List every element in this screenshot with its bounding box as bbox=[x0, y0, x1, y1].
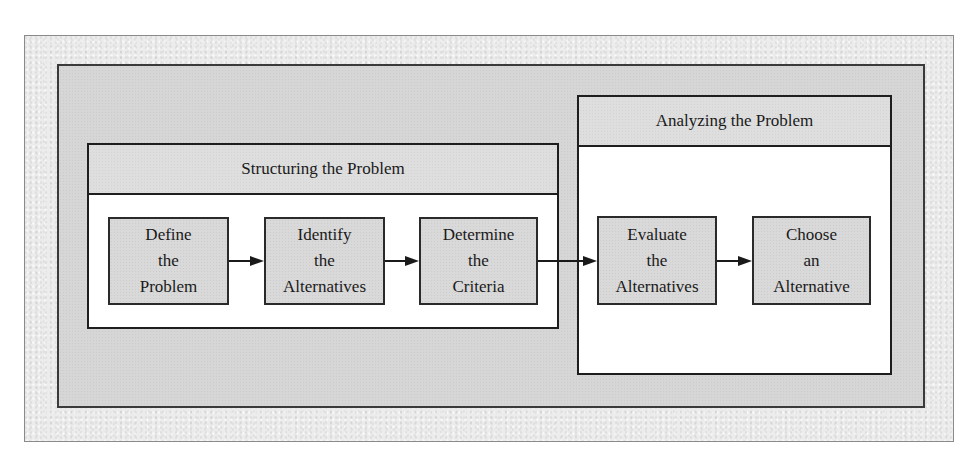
phase-analyzing-title: Analyzing the Problem bbox=[579, 97, 890, 147]
step-line: the bbox=[158, 248, 179, 274]
step-line: the bbox=[647, 248, 668, 274]
step-line: Determine bbox=[443, 222, 515, 248]
step-line: the bbox=[468, 248, 489, 274]
phase-structuring-title: Structuring the Problem bbox=[89, 145, 557, 195]
step-line: an bbox=[803, 248, 819, 274]
arrow-define-to-identify bbox=[229, 260, 251, 262]
arrow-head-icon bbox=[738, 256, 752, 266]
step-determine-criteria: Determine the Criteria bbox=[419, 217, 538, 305]
arrow-head-icon bbox=[583, 256, 597, 266]
arrow-determine-to-evaluate bbox=[538, 260, 584, 262]
step-line: the bbox=[314, 248, 335, 274]
step-line: Alternatives bbox=[615, 274, 698, 300]
step-choose-alternative: Choose an Alternative bbox=[752, 216, 871, 305]
arrow-identify-to-determine bbox=[385, 260, 406, 262]
step-line: Identify bbox=[298, 222, 352, 248]
step-line: Alternative bbox=[773, 274, 849, 300]
step-line: Evaluate bbox=[627, 222, 686, 248]
step-define-problem: Define the Problem bbox=[108, 217, 229, 305]
step-identify-alternatives: Identify the Alternatives bbox=[264, 217, 385, 305]
arrow-evaluate-to-choose bbox=[717, 260, 739, 262]
step-evaluate-alternatives: Evaluate the Alternatives bbox=[597, 216, 717, 305]
arrow-head-icon bbox=[405, 256, 419, 266]
step-line: Define bbox=[145, 222, 191, 248]
arrow-head-icon bbox=[250, 256, 264, 266]
step-line: Alternatives bbox=[283, 274, 366, 300]
step-line: Criteria bbox=[453, 274, 505, 300]
step-line: Problem bbox=[140, 274, 198, 300]
step-line: Choose bbox=[786, 222, 837, 248]
